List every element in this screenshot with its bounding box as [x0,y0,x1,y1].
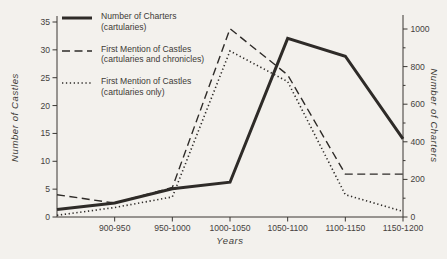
y-axis-right-tick-label: 200 [411,174,426,184]
legend-dotted-line-icon [62,79,92,87]
x-axis-tick-label: 1150-1200 [383,223,424,233]
y-axis-right-tick-label: 600 [411,99,426,109]
legend-item-castles-only: First Mention of Castles (cartularies on… [62,76,204,98]
legend-label: Number of Charters [101,11,176,22]
y-axis-left-tick-label: 10 [40,156,50,166]
y-axis-left-tick-label: 5 [45,184,50,194]
legend-dashed-line-icon [62,47,92,55]
legend-sublabel: (cartularies and chronicles) [101,54,204,65]
legend-solid-line-icon [62,14,92,22]
y-axis-left-tick-label: 20 [40,101,50,111]
x-axis-tick-label: 1100-1150 [325,223,365,233]
legend-item-charters: Number of Charters (cartularies) [62,11,204,33]
legend-label: First Mention of Castles [101,44,204,55]
chart: 0510152025303502004006008001000900-95095… [0,0,447,259]
legend-item-castles-chronicles: First Mention of Castles (cartularies an… [62,44,204,66]
y-axis-left-tick-label: 35 [40,17,50,27]
y-axis-right-tick-label: 400 [411,137,426,147]
y-axis-left-tick-label: 0 [45,212,50,222]
x-axis-tick-label: 900-950 [99,223,131,233]
legend-label: First Mention of Castles [101,76,191,87]
x-axis-tick-label: 1050-1100 [267,223,308,233]
x-axis-tick-label: 1000-1050 [209,223,250,233]
x-axis-tick-label: 950-1000 [154,223,191,233]
y-axis-right-tick-label: 1000 [411,24,430,34]
y-axis-right-tick-label: 800 [411,62,426,72]
y-axis-right-tick-label: 0 [411,212,416,222]
legend: Number of Charters (cartularies) First M… [62,11,204,109]
y-axis-left-tick-label: 15 [40,128,50,138]
legend-sublabel: (cartularies only) [101,87,191,98]
y-axis-left-tick-label: 25 [40,73,50,83]
y-axis-left-tick-label: 30 [40,45,50,55]
legend-sublabel: (cartularies) [101,22,176,33]
